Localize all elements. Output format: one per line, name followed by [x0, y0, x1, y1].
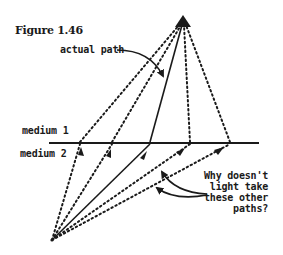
figure-title: Figure 1.46 — [15, 24, 83, 37]
arrow-icon — [214, 147, 224, 155]
arrow-icon — [176, 148, 185, 156]
upper-path-5 — [186, 25, 230, 142]
upper-path-2 — [112, 25, 181, 142]
arrow-icon — [106, 149, 111, 158]
upper-path-4 — [184, 25, 190, 142]
question-line: paths? — [204, 203, 268, 214]
question-annotation: Why doesn't light take these other paths… — [204, 170, 268, 214]
lower-path-4 — [52, 144, 190, 240]
question-line: Why doesn't — [204, 170, 268, 181]
figure-canvas: Figure 1.46 actual path medium 1 medium … — [0, 0, 283, 255]
actual-path-label: actual path — [60, 44, 124, 55]
medium-2-label: medium 2 — [20, 148, 67, 159]
source-point-icon — [50, 238, 53, 241]
question-pointer-arrow-1 — [162, 172, 207, 194]
upper-path-1 — [80, 24, 180, 142]
question-line: light take — [204, 181, 268, 192]
question-line: these other — [204, 192, 268, 203]
medium-1-label: medium 1 — [22, 125, 69, 136]
target-triangle-icon — [175, 15, 191, 27]
upper-paths — [80, 24, 230, 142]
upper-path-actual — [150, 25, 182, 142]
